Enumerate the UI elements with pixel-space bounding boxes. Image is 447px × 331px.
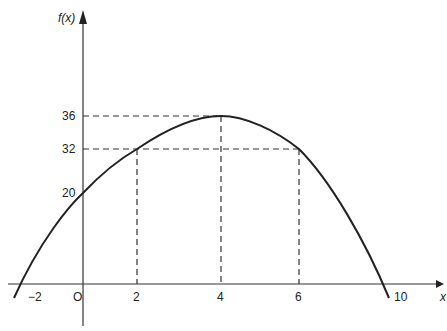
x-axis-arrow-icon xyxy=(436,280,444,288)
y-tick-20: 20 xyxy=(62,187,75,199)
x-tick-2: 2 xyxy=(133,291,140,303)
x-tick-6: 6 xyxy=(295,291,302,303)
chart-canvas xyxy=(0,0,447,331)
y-axis-label: f(x) xyxy=(58,12,75,24)
guide-lines xyxy=(83,116,299,284)
x-axis-label: x xyxy=(440,291,446,303)
x-tick-4: 4 xyxy=(217,291,224,303)
x-tick-10: 10 xyxy=(394,291,407,303)
x-tick-neg2: −2 xyxy=(28,291,42,303)
origin-label: O xyxy=(73,291,82,303)
y-tick-36: 36 xyxy=(62,110,75,122)
y-axis-arrow-icon xyxy=(79,10,87,24)
y-tick-32: 32 xyxy=(62,143,75,155)
